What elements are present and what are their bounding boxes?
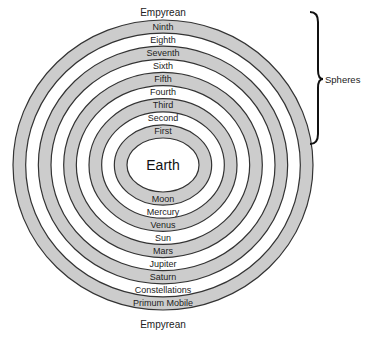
body-label-sun: Sun <box>155 233 171 243</box>
body-label-mars: Mars <box>153 246 173 256</box>
sphere-label-fifth: Fifth <box>154 74 172 84</box>
sphere-label-eighth: Eighth <box>150 35 176 45</box>
sphere-label-sixth: Sixth <box>153 61 173 71</box>
sphere-label-second: Second <box>148 113 179 123</box>
body-label-mercury: Mercury <box>147 207 180 217</box>
spheres-diagram: EarthFirstMoonSecondMercuryThirdVenusFou… <box>0 0 372 338</box>
sphere-label-ninth: Ninth <box>152 22 173 32</box>
spheres-bracket-label: Spheres <box>325 74 361 85</box>
body-label-jupiter: Jupiter <box>149 259 176 269</box>
body-label-primum-mobile: Primum Mobile <box>133 298 193 308</box>
body-label-moon: Moon <box>152 194 175 204</box>
body-label-venus: Venus <box>150 220 176 230</box>
sphere-label-fourth: Fourth <box>150 87 176 97</box>
sphere-label-seventh: Seventh <box>146 48 179 58</box>
sphere-label-first: First <box>154 126 172 136</box>
spheres-bracket <box>310 12 323 144</box>
sphere-label-third: Third <box>153 100 174 110</box>
earth-label: Earth <box>146 157 179 173</box>
empyrean-label-top: Empyrean <box>140 7 186 18</box>
body-label-saturn: Saturn <box>150 272 177 282</box>
empyrean-label-bottom: Empyrean <box>140 319 186 330</box>
body-label-constellations: Constellations <box>135 285 192 295</box>
